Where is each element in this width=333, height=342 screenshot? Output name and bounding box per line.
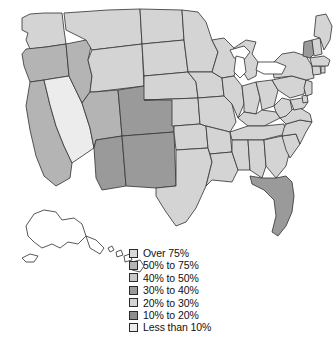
legend-swatch-20-30 [129, 298, 138, 307]
legend-swatch-40-50 [129, 273, 138, 282]
state-alabama [248, 140, 266, 178]
legend-item-40-50: 40% to 50% [129, 272, 233, 284]
state-kentucky [238, 110, 280, 126]
choropleth-map-figure: Over 75% 50% to 75% 40% to 50% 30% to 40… [0, 0, 333, 342]
state-florida [250, 176, 294, 236]
legend-label-30-40: 30% to 40% [143, 285, 199, 296]
state-delaware [302, 95, 308, 103]
legend-item-over-75: Over 75% [129, 247, 233, 259]
legend-label-40-50: 40% to 50% [143, 273, 199, 284]
legend-label-10-20: 10% to 20% [143, 310, 199, 321]
state-oklahoma [174, 124, 208, 150]
map-legend: Over 75% 50% to 75% 40% to 50% 30% to 40… [129, 247, 233, 334]
state-new-mexico [122, 132, 176, 188]
legend-item-30-40: 30% to 40% [129, 284, 233, 296]
state-wyoming [88, 44, 144, 92]
state-arizona [94, 136, 126, 190]
state-south-dakota [142, 40, 188, 76]
legend-swatch-50-75 [129, 261, 138, 270]
state-louisiana [206, 152, 238, 186]
state-massachusetts [310, 56, 330, 66]
state-rhode-island [321, 66, 325, 73]
state-nebraska [144, 72, 198, 100]
legend-swatch-less-than-10 [129, 323, 138, 332]
legend-swatch-10-20 [129, 311, 138, 320]
alaska-panhandle [86, 236, 104, 254]
state-washington [22, 13, 66, 49]
legend-item-less-than-10: Less than 10% [129, 321, 233, 333]
hawaii-island-1 [108, 246, 114, 252]
hawaii-island-2 [116, 250, 123, 257]
state-connecticut [312, 66, 321, 75]
state-oregon [22, 44, 69, 82]
legend-item-10-20: 10% to 20% [129, 309, 233, 321]
legend-label-20-30: 20% to 30% [143, 298, 199, 309]
state-north-dakota [140, 9, 184, 44]
lake-erie-ontario-water [256, 62, 286, 74]
state-alaska [26, 210, 86, 248]
legend-item-20-30: 20% to 30% [129, 297, 233, 309]
legend-swatch-over-75 [129, 249, 138, 258]
legend-label-less-than-10: Less than 10% [143, 322, 211, 333]
legend-swatch-30-40 [129, 286, 138, 295]
legend-item-50-75: 50% to 75% [129, 259, 233, 271]
aleutian-islands [22, 254, 38, 262]
lake-michigan-water [234, 56, 246, 78]
legend-label-50-75: 50% to 75% [143, 260, 199, 271]
legend-label-over-75: Over 75% [143, 248, 189, 259]
state-new-jersey [304, 80, 312, 96]
